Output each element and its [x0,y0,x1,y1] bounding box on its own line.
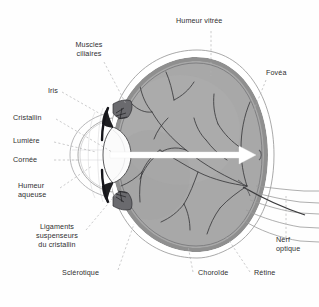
eye-anatomy-diagram: Humeur vitrée Fovéa Muscles ciliaires Ir… [0,0,319,307]
label-choroide: Choroïde [198,269,228,278]
label-retine: Rétine [254,269,275,278]
label-muscles-ciliaires-line2: ciliaires [58,50,120,59]
label-nerf-optique-line2: optique [276,245,300,254]
label-sclerotique: Sclérotique [62,269,99,278]
label-cornee: Cornée [13,156,37,165]
label-humeur-vitree: Humeur vitrée [176,17,222,26]
label-ligaments-line3: du cristallin [26,241,88,250]
eye-cross-section-illustration [0,0,319,307]
label-iris: Iris [20,87,58,96]
label-fovea: Fovéa [266,69,286,78]
label-humeur-aqueuse-line2: aqueuse [18,191,46,200]
label-cristallin: Cristallin [13,114,42,123]
label-lumiere: Lumière [13,137,40,146]
